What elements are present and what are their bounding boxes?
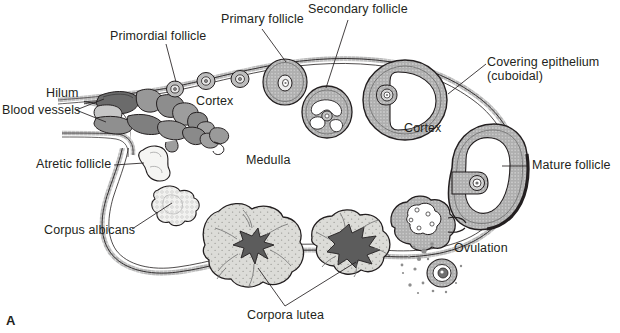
label-cortex-right: Cortex (404, 122, 441, 135)
leader-primordial-follicle (166, 44, 176, 82)
primordial-follicle-1 (167, 81, 184, 97)
primary-follicle (263, 59, 307, 105)
label-corpus-albicans: Corpus albicans (44, 224, 135, 237)
label-cortex-left: Cortex (196, 95, 233, 108)
mature-follicle (448, 124, 528, 230)
leader-primary-follicle (262, 29, 286, 62)
primordial-follicle-2 (197, 73, 215, 90)
label-primary-follicle: Primary follicle (221, 13, 304, 26)
label-primordial-follicle: Primordial follicle (110, 30, 206, 43)
label-medulla: Medulla (246, 154, 290, 167)
label-covering-epithelium-qualifier: (cuboidal) (487, 70, 543, 83)
ovary-histology-figure: Primordial follicle Primary follicle Sec… (0, 0, 620, 333)
label-ovulation: Ovulation (454, 242, 508, 255)
label-secondary-follicle: Secondary follicle (308, 3, 408, 16)
label-hilum: Hilum (46, 87, 78, 100)
label-atretic-follicle: Atretic follicle (36, 158, 111, 171)
label-blood-vessels: Blood vessels (2, 104, 80, 117)
corpus-luteum-2 (312, 210, 390, 277)
label-corpora-lutea: Corpora lutea (247, 309, 324, 322)
label-mature-follicle: Mature follicle (532, 159, 611, 172)
panel-letter: A (6, 313, 15, 328)
secondary-follicle (302, 86, 352, 138)
primordial-follicle-3 (231, 71, 249, 88)
label-covering-epithelium: Covering epithelium (487, 56, 599, 69)
ovulated-oocyte (427, 259, 457, 287)
